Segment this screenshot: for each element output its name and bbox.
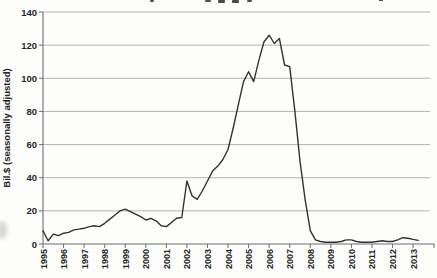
y-tick-label: 40 — [26, 172, 37, 183]
x-tick-label: 2003 — [203, 249, 213, 269]
y-tick-label: 80 — [26, 106, 37, 117]
x-tick-label: 2005 — [244, 249, 254, 269]
y-tick-label: 140 — [21, 7, 37, 18]
x-tick-label: 1996 — [59, 249, 69, 269]
x-tick-label: 2002 — [182, 249, 192, 269]
y-tick-label: 100 — [21, 73, 37, 84]
x-tick-label: 2012 — [388, 249, 398, 269]
line-chart: 0204060801001201401995199619971998199920… — [0, 0, 437, 278]
x-tick-label: 2004 — [224, 249, 234, 269]
x-tick-label: 2007 — [285, 249, 295, 269]
y-tick-label: 0 — [32, 239, 37, 250]
y-tick-label: 20 — [26, 205, 37, 216]
x-tick-label: 2000 — [141, 249, 151, 269]
y-axis-title: Bil.$ (seasonally adjusted) — [1, 68, 12, 187]
y-tick-label: 60 — [26, 139, 37, 150]
x-tick-label: 2001 — [162, 249, 172, 269]
x-tick-label: 2013 — [409, 249, 419, 269]
x-tick-label: 2006 — [265, 249, 275, 269]
y-tick-label: 120 — [21, 40, 37, 51]
x-tick-label: 2010 — [347, 249, 357, 269]
x-tick-label: 1997 — [80, 249, 90, 269]
x-tick-label: 1995 — [39, 249, 49, 269]
chart-figure: 0204060801001201401995199619971998199920… — [0, 0, 437, 278]
x-tick-label: 1998 — [100, 249, 110, 269]
x-tick-label: 1999 — [121, 249, 131, 269]
x-tick-label: 2008 — [306, 249, 316, 269]
x-tick-label: 2011 — [367, 249, 377, 269]
x-tick-label: 2009 — [326, 249, 336, 269]
